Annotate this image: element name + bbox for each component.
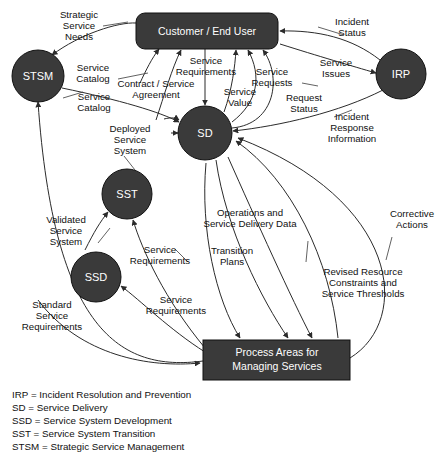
- edge-label-standard-service-requirements: Standard Service Requirements: [22, 299, 82, 332]
- label-line: Actions: [396, 219, 428, 230]
- diagram-svg: Customer / End User STSM IRP SD SST SSD …: [0, 0, 447, 454]
- label-line: Service: [144, 244, 176, 255]
- edge-ssd-to-sst-validated-system: [85, 212, 108, 250]
- label-line: Service: [50, 225, 82, 236]
- edge-label-revised-resource-constraints: Revised Resource Constraints and Service…: [322, 266, 405, 299]
- label-line: Contract / Service: [118, 78, 195, 89]
- label-line: System: [114, 145, 146, 156]
- edge-label-validated-service-system: Validated Service System: [46, 214, 86, 247]
- sst-label: SST: [116, 188, 138, 200]
- label-line: Incident: [335, 16, 369, 27]
- edge-label-strategic-service-needs: Strategic Service Needs: [60, 9, 98, 42]
- label-line: Requests: [252, 77, 293, 88]
- label-line: Incident: [335, 111, 369, 122]
- process-areas-label-line1: Process Areas for: [236, 346, 319, 358]
- node-sst[interactable]: SST: [102, 169, 152, 219]
- stsm-label: STSM: [23, 70, 54, 82]
- label-line: Service: [320, 57, 352, 68]
- label-line: Status: [338, 27, 366, 38]
- edge-label-service-catalog-bottom: Service Catalog: [77, 91, 110, 113]
- edge-label-service-requirements-sst: Service Requirements: [130, 244, 190, 266]
- edge-label-service-value: Service Value: [224, 86, 256, 108]
- legend-item-stsm: STSM = Strategic Service Management: [12, 441, 185, 452]
- edge-process-to-sd-revised-resource: [236, 141, 338, 338]
- node-process-areas[interactable]: Process Areas for Managing Services: [203, 340, 350, 380]
- label-line: Validated: [46, 214, 86, 225]
- node-customer[interactable]: Customer / End User: [136, 13, 278, 49]
- label-line: Requirements: [22, 321, 82, 332]
- label-line: Request: [286, 92, 322, 103]
- label-line: Service: [190, 55, 222, 66]
- label-line: Needs: [65, 31, 93, 42]
- label-line: Strategic: [60, 9, 98, 20]
- edge-label-corrective-actions: Corrective Actions: [390, 208, 434, 230]
- process-areas-label-line2: Managing Services: [232, 360, 321, 372]
- label-line: Service: [78, 91, 110, 102]
- label-line: Standard: [32, 299, 71, 310]
- edge-label-request-status: Request Status: [286, 92, 322, 114]
- label-line: Catalog: [76, 73, 109, 84]
- node-sd[interactable]: SD: [178, 106, 232, 160]
- label-line: Constraints and: [329, 277, 397, 288]
- edge-label-service-catalog-top: Service Catalog: [76, 62, 109, 84]
- label-line: Requirements: [176, 66, 236, 77]
- label-line: Service: [256, 66, 288, 77]
- label-line: Service Thresholds: [322, 288, 405, 299]
- edge-label-service-requests: Service Requests: [252, 66, 293, 88]
- label-line: Requirements: [130, 255, 190, 266]
- label-line: Service: [77, 62, 109, 73]
- label-line: Information: [328, 133, 376, 144]
- edge-label-incident-response-information: Incident Response Information: [328, 111, 376, 144]
- label-line: System: [50, 236, 82, 247]
- legend-item-ssd: SSD = Service System Development: [12, 415, 172, 426]
- label-line: Response: [330, 122, 374, 133]
- irp-label: IRP: [392, 68, 410, 80]
- label-line: Service: [63, 20, 95, 31]
- label-line: Service: [36, 310, 68, 321]
- label-line: Service: [160, 294, 192, 305]
- label-line: Requirements: [146, 305, 206, 316]
- label-line: Deployed: [110, 123, 151, 134]
- edge-label-contract-service-agreement: Contract / Service Agreement: [118, 78, 195, 100]
- edge-label-service-requirements-ssd: Service Requirements: [146, 294, 206, 316]
- label-line: Value: [228, 97, 252, 108]
- edge-label-service-requirements-top: Service Requirements: [176, 55, 236, 77]
- sd-label: SD: [197, 127, 212, 139]
- node-ssd[interactable]: SSD: [71, 252, 121, 302]
- diagram-canvas: Customer / End User STSM IRP SD SST SSD …: [0, 0, 447, 454]
- edge-label-service-issues: Service Issues: [320, 57, 352, 79]
- label-line: Agreement: [132, 89, 180, 100]
- customer-label: Customer / End User: [158, 25, 257, 37]
- label-line: Revised Resource: [323, 266, 402, 277]
- label-line: Issues: [322, 68, 350, 79]
- edge-label-operations-and-service-delivery-data: Operations and Service Delivery Data: [203, 207, 297, 229]
- node-irp[interactable]: IRP: [376, 49, 426, 99]
- label-line: Corrective: [390, 208, 434, 219]
- label-line: Status: [290, 103, 318, 114]
- ssd-label: SSD: [85, 271, 108, 283]
- node-stsm[interactable]: STSM: [12, 50, 64, 102]
- legend: IRP = Incident Resolution and Prevention…: [12, 389, 191, 452]
- edge-process-to-sst-requirements: [133, 220, 205, 348]
- label-line: Service Delivery Data: [203, 218, 297, 229]
- legend-item-irp: IRP = Incident Resolution and Prevention: [12, 389, 191, 400]
- label-line: Transition: [211, 245, 253, 256]
- edge-label-deployed-service-system: Deployed Service System: [110, 123, 151, 156]
- legend-item-sst: SST = Service System Transition: [12, 428, 155, 439]
- legend-item-sd: SD = Service Delivery: [12, 402, 108, 413]
- edge-process-to-sd-corrective-actions: [238, 138, 385, 358]
- label-line: Plans: [220, 256, 244, 267]
- label-line: Service: [114, 134, 146, 145]
- label-line: Catalog: [77, 102, 110, 113]
- label-line: Operations and: [217, 207, 283, 218]
- edge-label-incident-status: Incident Status: [335, 16, 369, 38]
